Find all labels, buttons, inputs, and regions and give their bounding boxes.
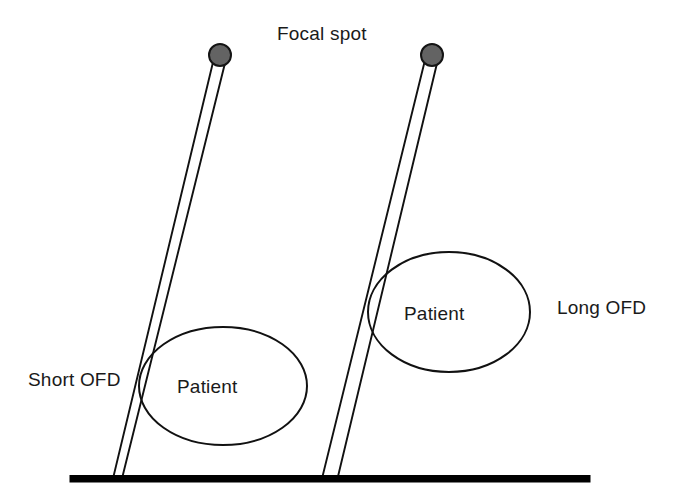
focal-spot-right-icon	[421, 44, 443, 66]
beam-short-ofd	[113, 56, 227, 479]
focal-spot-left-icon	[209, 44, 231, 66]
short-ofd-label: Short OFD	[28, 369, 121, 390]
beam-long-ofd	[322, 56, 439, 479]
patient-label-short-ofd: Patient	[177, 376, 238, 397]
ofd-diagram: Focal spot Short OFD Long OFD Patient Pa…	[0, 0, 681, 503]
patient-label-long-ofd: Patient	[404, 303, 465, 324]
long-ofd-label: Long OFD	[557, 297, 646, 318]
film-baseline	[70, 476, 590, 483]
diagram-canvas: Focal spot Short OFD Long OFD Patient Pa…	[0, 0, 681, 503]
focal-spot-label: Focal spot	[277, 23, 367, 44]
